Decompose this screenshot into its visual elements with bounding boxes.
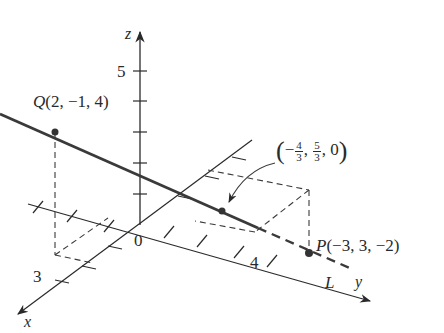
intersection-label: (−43, 53, 0) xyxy=(276,138,347,164)
z-axis-label: z xyxy=(125,26,131,42)
fraction-x: 43 xyxy=(295,140,303,163)
fraction-y: 53 xyxy=(313,140,321,163)
point-P-name: P xyxy=(316,236,326,255)
z-axis xyxy=(133,32,147,225)
point-Q-label: Q(2, −1, 4) xyxy=(33,93,109,110)
point-Q-name: Q xyxy=(33,92,45,111)
y-axis-ticks xyxy=(33,201,277,267)
p-projection-dashes xyxy=(195,170,309,252)
point-Q xyxy=(52,129,59,136)
x-axis xyxy=(18,140,252,314)
line-L-label: L xyxy=(325,274,334,291)
y-tick-label-4: 4 xyxy=(250,254,259,271)
pointer-arrow xyxy=(229,163,275,202)
point-P-coords: (−3, 3, −2) xyxy=(326,236,399,255)
point-intersection xyxy=(219,208,226,215)
z-tick-label-5: 5 xyxy=(117,63,126,80)
diagram-canvas xyxy=(0,0,444,333)
point-P xyxy=(305,249,313,257)
point-P-label: P(−3, 3, −2) xyxy=(316,237,399,254)
y-axis-label: y xyxy=(355,274,362,290)
q-projection-dashes xyxy=(55,132,108,263)
point-Q-coords: (2, −1, 4) xyxy=(45,92,108,111)
x-axis-label: x xyxy=(24,314,31,330)
origin-label: 0 xyxy=(134,232,143,249)
x-tick-label-3: 3 xyxy=(33,268,42,285)
